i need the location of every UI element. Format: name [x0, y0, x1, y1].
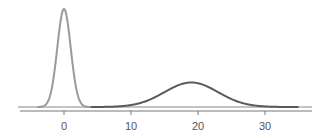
- tick-label: 10: [125, 120, 137, 132]
- tick-label: 20: [192, 120, 204, 132]
- x-axis-ticks: 0 10 20 30: [61, 111, 271, 132]
- tick-0: 0: [61, 111, 67, 132]
- tick-label: 30: [259, 120, 271, 132]
- tick-20: 20: [192, 111, 204, 132]
- density-curve-1: [37, 9, 91, 107]
- tick-30: 30: [259, 111, 271, 132]
- tick-label: 0: [61, 120, 67, 132]
- tick-10: 10: [125, 111, 137, 132]
- density-curve-2: [91, 83, 299, 107]
- density-chart: 0 10 20 30: [0, 0, 333, 138]
